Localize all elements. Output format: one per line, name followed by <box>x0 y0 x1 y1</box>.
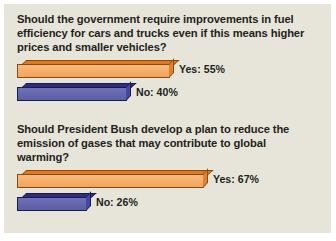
bar-yes-1 <box>17 60 174 78</box>
bar-yes-2 <box>17 170 208 188</box>
bar-no-1 <box>17 83 131 101</box>
bar-front-face <box>17 197 87 211</box>
question-title-2: Should President Bush develop a plan to … <box>17 122 317 164</box>
bar-front-face <box>17 174 204 188</box>
bars-area-2: Yes: 67% No: 26% <box>4 168 331 214</box>
bar-row-yes-1: Yes: 55% <box>4 58 331 81</box>
bar-row-yes-2: Yes: 67% <box>4 168 331 191</box>
bar-label-no-2: No: 26% <box>96 196 138 208</box>
poll-panel: Should the government require improvemen… <box>4 4 331 233</box>
bar-right-face <box>126 81 131 101</box>
bar-front-face <box>17 87 127 101</box>
bar-label-yes-2: Yes: 67% <box>213 173 259 185</box>
bar-no-2 <box>17 193 91 211</box>
question-title-1: Should the government require improvemen… <box>17 12 317 54</box>
bar-front-face <box>17 64 170 78</box>
bar-right-face <box>86 191 91 211</box>
bar-row-no-1: No: 40% <box>4 81 331 104</box>
bar-right-face <box>169 58 174 78</box>
bar-right-face <box>203 168 208 188</box>
bars-area-1: Yes: 55% No: 40% <box>4 58 331 104</box>
bar-row-no-2: No: 26% <box>4 191 331 214</box>
bar-label-yes-1: Yes: 55% <box>179 63 225 75</box>
bar-label-no-1: No: 40% <box>136 86 178 98</box>
